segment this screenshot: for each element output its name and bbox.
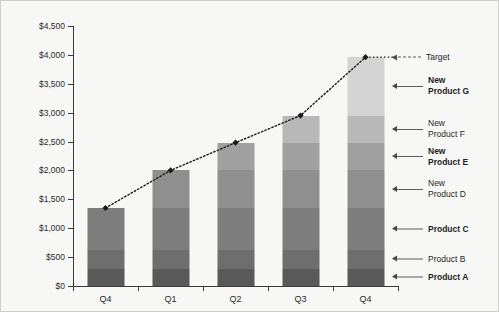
annotation-arrow-icon — [393, 277, 423, 278]
y-axis-tick-mark — [68, 228, 73, 229]
x-axis-tick-mark — [268, 286, 269, 291]
annotation-new-product-f: New Product F — [393, 118, 465, 140]
annotation-new-product-g: New Product G — [393, 75, 469, 97]
bar-segment — [152, 208, 189, 250]
bar-segment — [152, 269, 189, 286]
annotation-arrow-icon — [393, 129, 423, 130]
annotation-label: New Product G — [428, 75, 469, 97]
bar-segment — [347, 208, 384, 250]
bar-segment — [282, 143, 319, 171]
bar-segment — [347, 116, 384, 143]
bar-segment — [347, 250, 384, 269]
y-axis-tick-label: $2,000 — [39, 165, 65, 175]
y-axis-tick-mark — [68, 113, 73, 114]
annotation-label: New Product E — [428, 146, 468, 168]
annotation-new-product-d: New Product D — [393, 178, 466, 200]
y-axis-tick-label: $1,000 — [39, 223, 65, 233]
y-axis-tick-label: $0 — [56, 281, 65, 291]
annotation-new-product-e: New Product E — [393, 146, 468, 168]
y-axis-tick-mark — [68, 199, 73, 200]
annotation-product-a: Product A — [393, 272, 468, 283]
y-axis-tick-label: $4,000 — [39, 50, 65, 60]
y-axis-tick-label: $500 — [46, 252, 65, 262]
y-axis-tick-mark — [68, 55, 73, 56]
bar-segment — [282, 170, 319, 208]
bar-segment — [87, 208, 124, 250]
bar-segment — [152, 170, 189, 208]
annotation-label: Product C — [428, 223, 469, 234]
y-axis-tick-mark — [68, 257, 73, 258]
x-axis-tick-label: Q4 — [99, 294, 111, 304]
annotation-arrow-icon — [393, 86, 423, 87]
x-axis-tick-label: Q2 — [229, 294, 241, 304]
annotation-arrow-icon — [393, 228, 423, 229]
stacked-bar — [282, 116, 319, 286]
annotation-arrow-icon — [393, 156, 423, 157]
annotation-target: Target — [393, 52, 450, 63]
x-axis-tick-label: Q4 — [359, 294, 371, 304]
bar-segment — [217, 269, 254, 286]
y-axis-tick-label: $3,500 — [39, 79, 65, 89]
bar-segment — [217, 208, 254, 250]
bar-segment — [282, 116, 319, 143]
stacked-bar — [87, 208, 124, 286]
x-axis-tick-mark — [138, 286, 139, 291]
annotation-arrow-icon — [393, 57, 421, 58]
stacked-bar — [152, 170, 189, 286]
x-axis-tick-mark — [73, 286, 74, 291]
bar-segment — [347, 170, 384, 208]
y-axis-tick-mark — [68, 142, 73, 143]
x-axis-tick-label: Q3 — [294, 294, 306, 304]
y-axis-tick-label: $3,000 — [39, 108, 65, 118]
y-axis-tick-label: $1,500 — [39, 194, 65, 204]
y-axis-tick-label: $2,500 — [39, 137, 65, 147]
y-axis-tick-label: $4,500 — [39, 21, 65, 31]
bar-segment — [347, 57, 384, 115]
stacked-bar — [217, 143, 254, 286]
bar-segment — [87, 250, 124, 269]
bar-segment — [217, 170, 254, 208]
annotation-label: Product A — [428, 272, 468, 283]
y-axis-tick-mark — [68, 84, 73, 85]
y-axis-tick-mark — [68, 26, 73, 27]
annotation-label: Product B — [428, 254, 465, 265]
bar-segment — [282, 250, 319, 269]
x-axis-tick-mark — [203, 286, 204, 291]
bar-segment — [282, 269, 319, 286]
bar-segment — [347, 269, 384, 286]
bar-segment — [347, 143, 384, 171]
annotation-arrow-icon — [393, 259, 423, 260]
chart-figure: $0$500$1,000$1,500$2,000$2,500$3,000$3,5… — [0, 0, 499, 312]
x-axis-ticks: Q4Q1Q2Q3Q4 — [73, 286, 398, 312]
annotation-product-b: Product B — [393, 254, 465, 265]
x-axis-tick-label: Q1 — [164, 294, 176, 304]
x-axis-tick-mark — [333, 286, 334, 291]
y-axis-tick-mark — [68, 170, 73, 171]
bar-segment — [87, 269, 124, 286]
bar-segment — [152, 250, 189, 269]
bar-segment — [282, 208, 319, 250]
annotation-label: New Product D — [428, 178, 466, 200]
series-annotations: TargetNew Product GNew Product FNew Prod… — [393, 1, 499, 312]
bar-segment — [217, 143, 254, 171]
annotation-label: Target — [426, 52, 450, 63]
annotation-arrow-icon — [393, 189, 423, 190]
stacked-bar — [347, 57, 384, 286]
annotation-product-c: Product C — [393, 223, 469, 234]
plot-area: $0$500$1,000$1,500$2,000$2,500$3,000$3,5… — [73, 26, 393, 286]
annotation-label: New Product F — [428, 118, 465, 140]
bar-segment — [217, 250, 254, 269]
